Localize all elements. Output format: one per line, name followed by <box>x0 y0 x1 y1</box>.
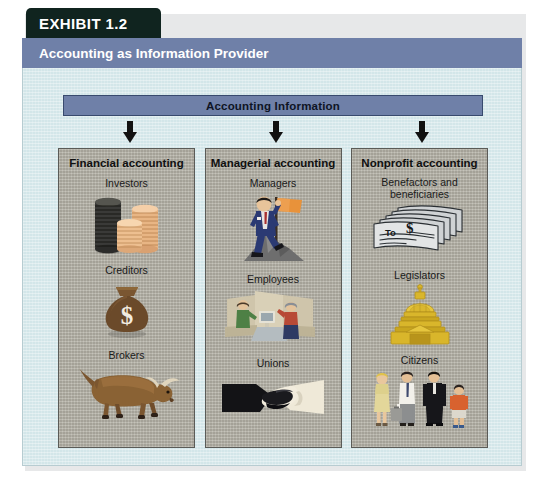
exhibit-title: Accounting as Information Provider <box>22 38 522 68</box>
entry-investors: Investors <box>59 177 194 254</box>
arrow-down-icon-managerial <box>269 121 283 143</box>
column-title-nonprofit: Nonprofit accounting <box>361 157 477 170</box>
entry-label-benefactors: Benefactors and beneficiaries <box>352 176 487 200</box>
column-nonprofit-accounting: Nonprofit accounting Benefactors and ben… <box>351 148 488 448</box>
columns-container: Financial accounting Investors <box>58 148 488 448</box>
money-bag-icon: $ <box>94 279 160 339</box>
arrow-down-icon-financial <box>123 121 137 143</box>
column-title-financial: Financial accounting <box>69 157 183 170</box>
coin-stacks-icon <box>84 192 170 254</box>
arrow-head <box>123 132 137 143</box>
check-to-text: To <box>385 227 396 238</box>
exhibit-body: Accounting Information Financial account… <box>22 68 522 466</box>
entry-managers: Managers <box>206 177 341 265</box>
entry-label-employees: Employees <box>247 273 299 285</box>
handshake-icon <box>220 372 326 424</box>
entry-label-investors: Investors <box>105 177 148 189</box>
check-dollar-text: $ <box>406 220 414 236</box>
capitol-dome-icon <box>380 282 460 346</box>
bull-icon <box>73 363 181 421</box>
exhibit-figure: EXHIBIT 1.2 Accounting as Information Pr… <box>22 8 522 466</box>
entry-unions: Unions <box>206 357 341 424</box>
entry-brokers: Brokers <box>59 349 194 421</box>
entry-citizens: Citizens <box>352 354 487 430</box>
arrow-head <box>415 132 429 143</box>
checks-stack-icon: To $ <box>364 202 476 260</box>
entry-creditors: Creditors $ <box>59 264 194 339</box>
exhibit-number-tag: EXHIBIT 1.2 <box>26 8 161 38</box>
arrow-down-icon-nonprofit <box>415 121 429 143</box>
entry-label-brokers: Brokers <box>108 349 144 361</box>
people-group-icon <box>364 368 476 430</box>
arrow-head <box>269 132 283 143</box>
entry-label-managers: Managers <box>250 177 297 189</box>
column-managerial-accounting: Managerial accounting Managers <box>205 148 342 448</box>
accounting-information-banner: Accounting Information <box>63 95 483 116</box>
entry-benefactors: Benefactors and beneficiaries <box>352 176 487 260</box>
entry-label-citizens: Citizens <box>401 354 438 366</box>
column-title-managerial: Managerial accounting <box>211 157 336 170</box>
businessman-flag-icon <box>234 191 312 265</box>
office-workers-icon <box>221 287 325 343</box>
entry-label-legislators: Legislators <box>394 269 445 281</box>
entry-employees: Employees <box>206 273 341 343</box>
svg-text:$: $ <box>120 302 133 329</box>
entry-label-unions: Unions <box>257 357 290 369</box>
entry-legislators: Legislators <box>352 269 487 346</box>
column-financial-accounting: Financial accounting Investors <box>58 148 195 448</box>
entry-label-creditors: Creditors <box>105 264 148 276</box>
